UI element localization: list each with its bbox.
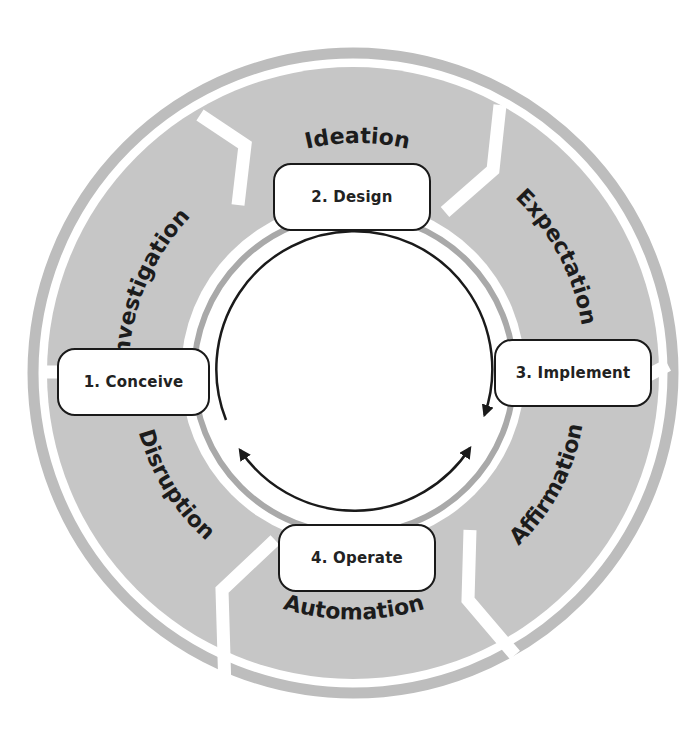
stage-label-operate: 4. Operate [311,549,403,567]
stage-box-operate: 4. Operate [278,524,436,592]
stage-label-design: 2. Design [311,188,392,206]
stage-box-conceive: 1. Conceive [57,348,210,416]
stage-box-design: 2. Design [273,163,431,231]
stage-label-conceive: 1. Conceive [84,373,184,391]
stage-box-implement: 3. Implement [494,339,652,407]
stage-label-implement: 3. Implement [516,364,631,382]
